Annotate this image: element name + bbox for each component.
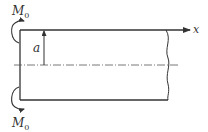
- beam-diagram: M0 M0 x a: [0, 0, 208, 132]
- moment-top-label: M0: [11, 4, 29, 20]
- x-axis-label: x: [193, 23, 200, 36]
- moment-top-arrow-icon: [12, 21, 24, 43]
- moment-bottom-arrow-icon: [12, 87, 24, 109]
- moment-bottom-label: M0: [11, 116, 29, 132]
- dimension-a-label: a: [33, 41, 40, 55]
